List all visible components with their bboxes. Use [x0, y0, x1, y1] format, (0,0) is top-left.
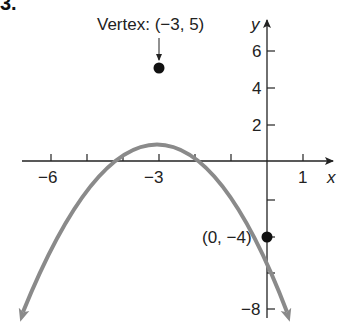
y-tick-label: −8: [241, 300, 260, 319]
y-axis-label: y: [250, 15, 261, 34]
parabola-graph: −6 −3 1 x 6 4 2 −8 y Vertex: (−3, 5) (0,…: [0, 0, 342, 325]
y-intercept-point: (0, −4): [202, 228, 273, 247]
x-axis: −6 −3 1 x: [22, 154, 336, 187]
x-tick-label: −6: [38, 168, 57, 187]
y-tick-label: 4: [252, 79, 261, 98]
x-tick-label: 1: [298, 168, 307, 187]
y-intercept-label: (0, −4): [202, 228, 252, 247]
y-tick-label: 2: [252, 116, 261, 135]
vertex-point: Vertex: (−3, 5): [97, 15, 204, 74]
vertex-label: Vertex: (−3, 5): [97, 15, 204, 34]
x-axis-label: x: [326, 168, 336, 187]
x-tick-label: −3: [144, 168, 163, 187]
y-tick-label: 6: [252, 42, 261, 61]
